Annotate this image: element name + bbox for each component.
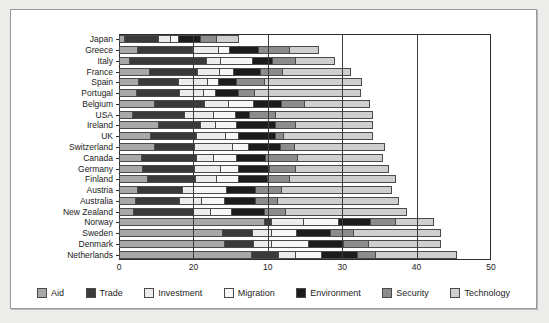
bar-segment-investment[interactable] (196, 132, 226, 140)
bar-segment-environment[interactable] (233, 68, 261, 76)
legend-item-technology[interactable]: Technology (450, 288, 510, 298)
bar-row[interactable]: Denmark (119, 239, 491, 249)
bar-segment-environment[interactable] (238, 175, 268, 183)
bar-segment-aid[interactable] (119, 111, 133, 119)
bar-segment-security[interactable] (238, 89, 255, 97)
bar-segment-environment[interactable] (224, 197, 257, 205)
stacked-bar[interactable] (119, 121, 372, 129)
bar-segment-investment[interactable] (253, 240, 272, 248)
bar-segment-security[interactable] (267, 175, 289, 183)
bar-segment-security[interactable] (272, 57, 296, 65)
bar-row[interactable]: Canada (119, 153, 491, 163)
bar-segment-investment[interactable] (184, 111, 214, 119)
bar-segment-trade[interactable] (251, 251, 279, 259)
bar-segment-aid[interactable] (119, 143, 155, 151)
bar-row[interactable]: UK (119, 131, 491, 141)
stacked-bar[interactable] (119, 78, 361, 86)
bar-segment-security[interactable] (265, 154, 298, 162)
stacked-bar[interactable] (119, 35, 238, 43)
bar-segment-trade[interactable] (133, 208, 194, 216)
bar-segment-technology[interactable] (368, 240, 441, 248)
bar-segment-security[interactable] (343, 240, 369, 248)
bar-segment-investment[interactable] (194, 143, 233, 151)
bar-segment-aid[interactable] (119, 132, 151, 140)
bar-segment-environment[interactable] (238, 132, 277, 140)
bar-segment-aid[interactable] (119, 197, 136, 205)
bar-segment-aid[interactable] (119, 218, 265, 226)
bar-segment-trade[interactable] (224, 240, 255, 248)
bar-segment-investment[interactable] (252, 229, 272, 237)
bar-segment-aid[interactable] (119, 46, 138, 54)
bar-segment-technology[interactable] (277, 197, 400, 205)
bar-row[interactable]: Greece (119, 45, 491, 55)
stacked-bar[interactable] (119, 251, 456, 259)
stacked-bar[interactable] (119, 240, 440, 248)
bar-segment-migration[interactable] (232, 143, 249, 151)
bar-segment-migration[interactable] (220, 57, 253, 65)
bar-segment-aid[interactable] (119, 251, 252, 259)
stacked-bar[interactable] (119, 143, 384, 151)
bar-segment-environment[interactable] (226, 186, 256, 194)
bar-segment-investment[interactable] (200, 121, 216, 129)
bar-segment-technology[interactable] (295, 121, 372, 129)
bar-row[interactable]: New Zealand (119, 207, 491, 217)
bar-segment-technology[interactable] (289, 46, 319, 54)
bar-segment-trade[interactable] (141, 154, 197, 162)
bar-segment-technology[interactable] (216, 35, 239, 43)
stacked-bar[interactable] (119, 197, 398, 205)
bar-segment-aid[interactable] (119, 154, 142, 162)
bar-segment-trade[interactable] (147, 175, 196, 183)
bar-segment-technology[interactable] (353, 229, 442, 237)
bar-segment-trade[interactable] (136, 89, 181, 97)
bar-segment-technology[interactable] (297, 154, 383, 162)
bar-row[interactable]: Australia (119, 196, 491, 206)
stacked-bar[interactable] (119, 229, 440, 237)
bar-segment-security[interactable] (275, 121, 297, 129)
bar-segment-environment[interactable] (235, 111, 251, 119)
bar-segment-migration[interactable] (201, 197, 225, 205)
bar-segment-technology[interactable] (294, 143, 385, 151)
stacked-bar[interactable] (119, 208, 406, 216)
bar-row[interactable]: Portugal (119, 88, 491, 98)
bar-segment-technology[interactable] (395, 218, 434, 226)
bar-segment-investment[interactable] (179, 197, 201, 205)
bar-segment-migration[interactable] (219, 68, 234, 76)
bar-segment-security[interactable] (260, 68, 283, 76)
bar-segment-aid[interactable] (119, 121, 159, 129)
bar-segment-aid[interactable] (119, 89, 137, 97)
bar-segment-trade[interactable] (132, 111, 185, 119)
bar-segment-trade[interactable] (137, 46, 193, 54)
bar-segment-investment[interactable] (192, 46, 219, 54)
bar-row[interactable]: Spain (119, 77, 491, 87)
bar-segment-trade[interactable] (154, 100, 205, 108)
bar-row[interactable]: Norway (119, 217, 491, 227)
legend-item-trade[interactable]: Trade (86, 288, 123, 298)
bar-segment-technology[interactable] (254, 89, 360, 97)
bar-segment-technology[interactable] (275, 111, 373, 119)
bar-segment-trade[interactable] (222, 229, 253, 237)
stacked-bar[interactable] (119, 175, 395, 183)
bar-segment-trade[interactable] (149, 68, 198, 76)
stacked-bar[interactable] (119, 186, 391, 194)
bar-row[interactable]: Belgium (119, 99, 491, 109)
bar-segment-technology[interactable] (282, 68, 351, 76)
bar-segment-investment[interactable] (196, 154, 215, 162)
bar-segment-trade[interactable] (124, 35, 159, 43)
bar-segment-environment[interactable] (236, 154, 266, 162)
bar-segment-technology[interactable] (304, 100, 369, 108)
bar-segment-migration[interactable] (295, 251, 322, 259)
bar-segment-investment[interactable] (278, 251, 296, 259)
bar-segment-investment[interactable] (206, 57, 222, 65)
stacked-bar[interactable] (119, 100, 369, 108)
bar-segment-security[interactable] (258, 46, 291, 54)
bar-row[interactable]: Italy (119, 56, 491, 66)
bar-segment-environment[interactable] (229, 46, 259, 54)
bar-segment-migration[interactable] (210, 208, 232, 216)
bar-segment-trade[interactable] (129, 57, 206, 65)
bar-segment-migration[interactable] (303, 218, 339, 226)
bar-segment-environment[interactable] (248, 143, 281, 151)
bar-segment-investment[interactable] (193, 208, 212, 216)
legend-item-investment[interactable]: Investment (144, 288, 202, 298)
stacked-bar[interactable] (119, 89, 360, 97)
legend-item-environment[interactable]: Environment (296, 288, 361, 298)
